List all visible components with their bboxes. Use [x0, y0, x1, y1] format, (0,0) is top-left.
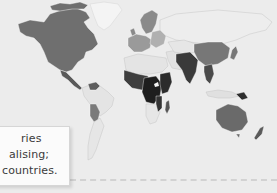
dashed-divider [70, 179, 277, 181]
caption-box: ries alising; countries. [0, 126, 70, 186]
caption-line-1: ries [21, 132, 41, 145]
caption-line-2: alising; [9, 148, 49, 161]
caption-line-3: countries. [2, 164, 58, 177]
